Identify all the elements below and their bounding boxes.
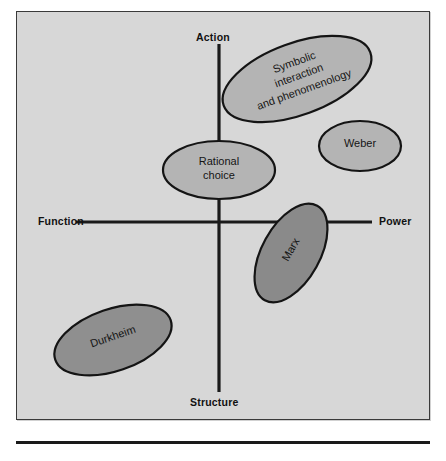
axis-label-power: Power	[379, 215, 412, 227]
axis-label-function: Function	[38, 215, 84, 227]
figure-container: Action Structure Function Power Symbolic…	[0, 0, 446, 461]
axis-label-structure: Structure	[190, 396, 238, 408]
bottom-divider-rule	[16, 441, 430, 444]
axis-label-action: Action	[196, 31, 230, 43]
cropped-header-text	[0, 0, 446, 7]
